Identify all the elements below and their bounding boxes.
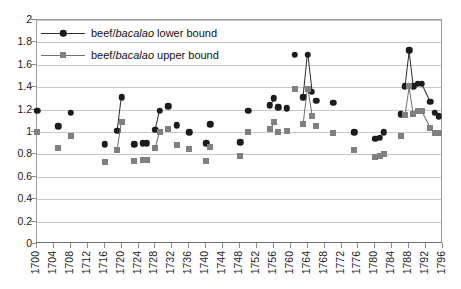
data-point-upper-bound: [330, 130, 336, 136]
data-point-upper-bound: [34, 129, 40, 135]
data-point-upper-bound: [292, 86, 298, 92]
x-axis-tick-label: 1780: [368, 251, 379, 274]
x-axis-tick-label: 1740: [199, 251, 210, 274]
x-axis-tick: [188, 243, 189, 248]
chart-container: 00.20.40.60.811.21.41.61.82 170017041708…: [0, 0, 461, 289]
x-axis-tick-label: 1760: [284, 251, 295, 274]
chart-legend: beef/bacalao lower boundbeef/bacalao upp…: [41, 22, 214, 66]
x-axis-tick: [341, 243, 342, 248]
data-point-lower-bound: [207, 121, 214, 128]
y-axis-tick-label: 1.6: [2, 59, 32, 69]
x-axis-tick: [408, 243, 409, 248]
legend-marker-circle-icon: [60, 30, 67, 37]
y-axis-tick-label: 1.4: [2, 81, 32, 91]
data-point-upper-bound: [55, 145, 61, 151]
data-point-upper-bound: [174, 142, 180, 148]
data-point-lower-bound: [165, 103, 172, 110]
gridline: [37, 87, 441, 88]
data-point-lower-bound: [131, 141, 138, 148]
data-point-upper-bound: [309, 113, 315, 119]
data-point-upper-bound: [131, 158, 137, 164]
legend-label: beef/bacalao lower bound: [85, 27, 217, 39]
data-point-upper-bound: [203, 158, 209, 164]
gridline: [37, 177, 441, 178]
data-point-upper-bound: [165, 126, 171, 132]
y-axis-tick-label: 1.8: [2, 36, 32, 46]
x-axis-tick: [171, 243, 172, 248]
gridline: [37, 222, 441, 223]
data-point-lower-bound: [436, 113, 443, 120]
x-axis-tick-label: 1736: [182, 251, 193, 274]
data-point-lower-bound: [292, 51, 299, 58]
x-axis-tick: [222, 243, 223, 248]
gridline: [37, 199, 441, 200]
x-axis-tick: [391, 243, 392, 248]
x-axis-tick: [205, 243, 206, 248]
x-axis-tick-label: 1712: [81, 251, 92, 274]
legend-item: beef/bacalao lower bound: [41, 22, 214, 44]
data-point-upper-bound: [305, 86, 311, 92]
data-point-upper-bound: [300, 121, 306, 127]
data-point-upper-bound: [313, 123, 319, 129]
legend-marker-square-icon: [60, 52, 66, 58]
data-point-lower-bound: [101, 141, 108, 148]
x-axis-tick: [70, 243, 71, 248]
data-point-lower-bound: [381, 129, 388, 136]
x-axis-tick-label: 1792: [419, 251, 430, 274]
x-axis-tick: [104, 243, 105, 248]
data-point-upper-bound: [271, 119, 277, 125]
data-point-lower-bound: [68, 110, 75, 117]
data-point-upper-bound: [381, 151, 387, 157]
series-connector: [409, 51, 414, 87]
data-point-upper-bound: [119, 119, 125, 125]
x-axis-tick: [357, 243, 358, 248]
y-axis-tick-label: 0.8: [2, 148, 32, 158]
x-axis-tick: [121, 243, 122, 248]
data-point-upper-bound: [237, 153, 243, 159]
y-axis-tick-label: 0.2: [2, 216, 32, 226]
x-axis-tick-label: 1796: [436, 251, 447, 274]
x-axis-tick: [36, 243, 37, 248]
data-point-upper-bound: [186, 146, 192, 152]
data-point-lower-bound: [245, 107, 252, 114]
data-point-upper-bound: [245, 129, 251, 135]
data-point-upper-bound: [398, 133, 404, 139]
x-axis-tick-label: 1732: [165, 251, 176, 274]
data-point-lower-bound: [275, 104, 282, 111]
x-axis-tick-label: 1748: [233, 251, 244, 274]
x-axis-tick-label: 1788: [402, 251, 413, 274]
x-axis-tick-label: 1700: [30, 251, 41, 274]
x-axis-tick-label: 1784: [385, 251, 396, 274]
data-point-lower-bound: [283, 105, 290, 112]
x-axis-tick-label: 1728: [148, 251, 159, 274]
data-point-lower-bound: [351, 129, 358, 136]
x-axis-tick: [324, 243, 325, 248]
data-point-upper-bound: [436, 130, 442, 136]
x-axis-tick-label: 1756: [267, 251, 278, 274]
y-axis-tick-label: 1: [2, 126, 32, 136]
data-point-lower-bound: [313, 97, 320, 104]
data-point-lower-bound: [144, 140, 151, 147]
x-axis-tick-label: 1768: [318, 251, 329, 274]
data-point-lower-bound: [186, 129, 193, 136]
data-point-lower-bound: [304, 51, 311, 58]
data-point-lower-bound: [55, 123, 62, 130]
data-point-lower-bound: [173, 122, 180, 129]
x-axis-tick: [239, 243, 240, 248]
data-point-upper-bound: [68, 133, 74, 139]
data-point-lower-bound: [118, 94, 125, 101]
data-point-upper-bound: [267, 126, 273, 132]
x-axis-tick: [374, 243, 375, 248]
y-axis-tick-label: 2: [2, 14, 32, 24]
x-axis-tick-label: 1744: [216, 251, 227, 274]
data-point-upper-bound: [275, 129, 281, 135]
data-point-lower-bound: [237, 139, 244, 146]
data-point-upper-bound: [152, 145, 158, 151]
x-axis-tick-label: 1772: [335, 251, 346, 274]
gridline: [37, 20, 441, 21]
x-axis-tick: [53, 243, 54, 248]
x-axis-tick-label: 1776: [351, 251, 362, 274]
data-point-lower-bound: [419, 81, 426, 88]
data-point-upper-bound: [402, 112, 408, 118]
x-axis-tick-label: 1704: [47, 251, 58, 274]
